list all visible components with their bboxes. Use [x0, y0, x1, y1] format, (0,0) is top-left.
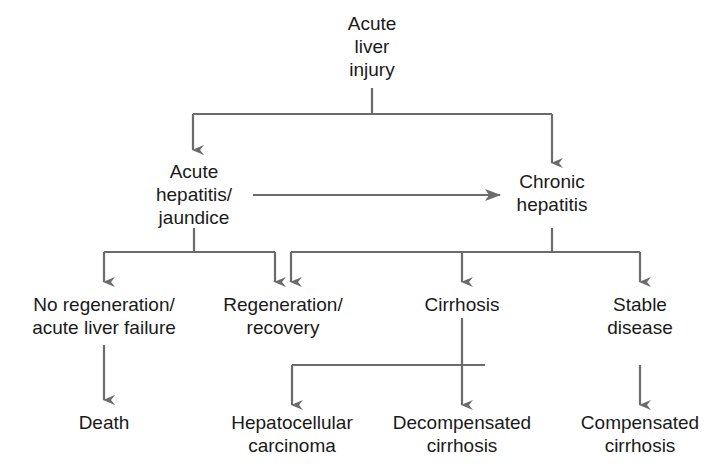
node-line: disease — [607, 316, 673, 339]
node-death: Death — [79, 411, 130, 434]
node-line: cirrhosis — [581, 434, 699, 457]
node-acute-hepatitis: Acute hepatitis/ jaundice — [156, 160, 232, 229]
node-regeneration: Regeneration/ recovery — [223, 293, 342, 339]
node-line: Death — [79, 411, 130, 434]
node-line: Acute — [156, 160, 232, 183]
node-line: liver — [348, 35, 397, 58]
node-line: Chronic — [517, 170, 588, 193]
node-decompensated-cirrhosis: Decompensated cirrhosis — [393, 411, 531, 457]
node-line: hepatitis/ — [156, 183, 232, 206]
node-line: Regeneration/ — [223, 293, 342, 316]
node-cirrhosis: Cirrhosis — [425, 293, 500, 316]
node-no-regeneration: No regeneration/ acute liver failure — [32, 293, 176, 339]
node-line: acute liver failure — [32, 316, 176, 339]
node-line: injury — [348, 58, 397, 81]
node-compensated-cirrhosis: Compensated cirrhosis — [581, 411, 699, 457]
node-line: jaundice — [156, 206, 232, 229]
node-line: Hepatocellular — [231, 411, 352, 434]
node-line: cirrhosis — [393, 434, 531, 457]
node-line: Cirrhosis — [425, 293, 500, 316]
node-line: Compensated — [581, 411, 699, 434]
node-line: recovery — [223, 316, 342, 339]
node-line: Stable — [607, 293, 673, 316]
node-line: Decompensated — [393, 411, 531, 434]
node-line: carcinoma — [231, 434, 352, 457]
node-line: hepatitis — [517, 193, 588, 216]
node-line: No regeneration/ — [32, 293, 176, 316]
node-stable-disease: Stable disease — [607, 293, 673, 339]
node-acute-liver-injury: Acute liver injury — [348, 12, 397, 81]
node-line: Acute — [348, 12, 397, 35]
node-chronic-hepatitis: Chronic hepatitis — [517, 170, 588, 216]
node-hepatocellular-carcinoma: Hepatocellular carcinoma — [231, 411, 352, 457]
